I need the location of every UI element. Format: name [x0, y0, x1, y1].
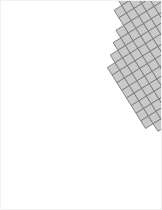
grid-map-canvas — [0, 0, 162, 210]
grid-cells-layer[interactable] — [0, 0, 162, 210]
